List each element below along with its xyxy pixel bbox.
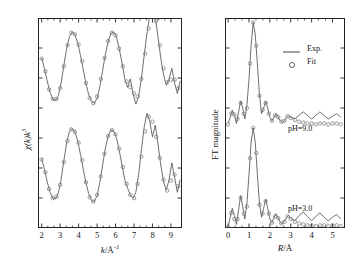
legend-exp-line-swatch <box>283 47 301 57</box>
left-panel-xtick-labels: 23456789 <box>38 230 182 242</box>
xtick-label: 2 <box>40 230 44 240</box>
xtick-label: 3 <box>58 230 62 240</box>
xtick-label: 7 <box>132 230 136 240</box>
xtick-label: 9 <box>169 230 173 240</box>
annotation-ph-3: pH=3.0 <box>288 204 312 213</box>
right-panel-xaxis-label: R/Å <box>225 243 345 253</box>
legend-fit-marker-swatch <box>283 60 301 70</box>
exafs-figure: 23456789 k/Å-1 χ(k)k3 012345 R/Å FT magn… <box>0 0 358 278</box>
xtick-label: 8 <box>150 230 154 240</box>
right-panel-xtick-labels: 012345 <box>225 230 345 242</box>
xtick-label: 3 <box>289 230 293 240</box>
left-panel-plot-area <box>38 18 182 228</box>
xtick-label: 6 <box>113 230 117 240</box>
legend-exp-label: Exp. <box>307 44 322 53</box>
annotation-ph-9: pH=9.0 <box>288 124 312 133</box>
left-panel-yaxis-label: χ(k)k3 <box>20 129 32 150</box>
xtick-label: 0 <box>226 230 230 240</box>
xtick-label: 2 <box>268 230 272 240</box>
left-panel-k-space <box>38 18 182 228</box>
xtick-label: 5 <box>95 230 99 240</box>
xtick-label: 4 <box>76 230 80 240</box>
right-panel-yaxis-label: FT magnitude <box>210 109 220 160</box>
xtick-label: 5 <box>330 230 334 240</box>
xtick-label: 1 <box>247 230 251 240</box>
xtick-label: 4 <box>309 230 313 240</box>
left-panel-xaxis-label: k/Å-1 <box>38 243 182 255</box>
legend-fit-label: Fit <box>307 57 316 66</box>
